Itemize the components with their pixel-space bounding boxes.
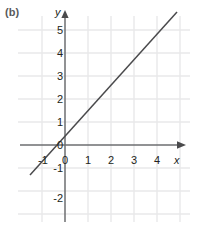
x-tick-label-3: 3 <box>130 155 138 166</box>
y-axis-label: y <box>55 7 61 18</box>
y-tick-label-4: 4 <box>55 48 63 59</box>
x-tick-label-0: 0 <box>61 155 69 166</box>
y-tick-label-3: 3 <box>55 71 63 82</box>
horizontal-gridlines <box>18 30 190 214</box>
y-tick-label-2: 2 <box>55 94 63 105</box>
data-line-y-equals-x-plus-1 <box>30 12 177 175</box>
y-tick-label-neg2: -2 <box>51 193 63 204</box>
x-tick-label-neg1: -1 <box>37 155 49 166</box>
x-tick-label-2: 2 <box>107 155 115 166</box>
y-tick-label-1: 1 <box>55 117 63 128</box>
figure-panel-b: (b) <box>0 0 199 238</box>
x-axis <box>20 141 186 149</box>
line-plot <box>0 0 199 238</box>
x-tick-label-1: 1 <box>84 155 92 166</box>
y-tick-label-5: 5 <box>55 25 63 36</box>
x-tick-label-4: 4 <box>153 155 161 166</box>
y-tick-label-0: 0 <box>55 140 63 151</box>
x-axis-label: x <box>174 155 180 166</box>
